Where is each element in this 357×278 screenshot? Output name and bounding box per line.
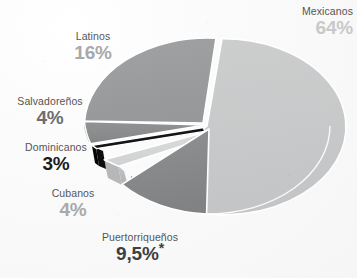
- label-mexicanos-value: 64%: [302, 18, 353, 38]
- footnote-marker-icon: *: [159, 240, 164, 256]
- label-latinos-value: 16%: [58, 43, 128, 63]
- label-cubanos-name: Cubanos: [32, 188, 114, 199]
- label-salvadorenos-name: Salvadoreños: [4, 96, 96, 107]
- label-mexicanos: Mexicanos 64%: [302, 6, 353, 38]
- label-dominicanos: Dominicanos 3%: [12, 142, 100, 174]
- label-salvadorenos-value: 4%: [4, 108, 96, 128]
- label-puertorriquenos-value: 9,5%*: [84, 244, 196, 264]
- label-salvadorenos: Salvadoreños 4%: [4, 96, 96, 128]
- label-puertorriquenos-name: Puertorriqueños: [84, 232, 196, 243]
- label-cubanos-value: 4%: [32, 200, 114, 220]
- label-dominicanos-value: 3%: [12, 154, 100, 174]
- chart-canvas: Mexicanos 64% Latinos 16% Salvadoreños 4…: [0, 0, 357, 278]
- label-puertorriquenos: Puertorriqueños 9,5%*: [84, 232, 196, 264]
- label-latinos-name: Latinos: [58, 31, 128, 42]
- label-latinos: Latinos 16%: [58, 31, 128, 63]
- label-mexicanos-name: Mexicanos: [302, 6, 353, 17]
- label-cubanos: Cubanos 4%: [32, 188, 114, 220]
- label-dominicanos-name: Dominicanos: [12, 142, 100, 153]
- label-puertorriquenos-number: 9,5%: [116, 243, 159, 264]
